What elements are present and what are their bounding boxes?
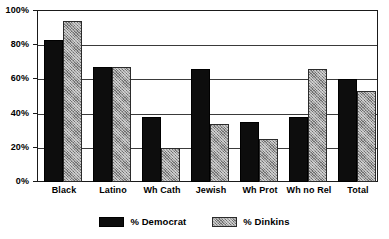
bars-layer xyxy=(37,10,378,182)
y-tick-label-100: 100% xyxy=(6,6,29,15)
y-tick-label-20: 20% xyxy=(11,143,29,152)
x-tick-label-wh-prot: Wh Prot xyxy=(238,185,282,196)
x-axis: Black Latino Wh Cath Jewish Wh Prot Wh n… xyxy=(37,185,378,199)
bar-democrat-wh-no-rel xyxy=(289,117,308,182)
bar-democrat-total xyxy=(338,79,357,182)
legend-swatch-dinkins-icon xyxy=(212,217,237,227)
bar-democrat-jewish xyxy=(191,69,210,182)
x-tick-label-wh-no-rel: Wh no Rel xyxy=(285,185,333,196)
bar-group-total xyxy=(336,10,380,182)
bar-dinkins-wh-no-rel xyxy=(308,69,327,182)
bar-democrat-wh-prot xyxy=(240,122,259,182)
y-tick-label-60: 60% xyxy=(11,74,29,83)
bar-group-wh-cath xyxy=(140,10,184,182)
x-tick-label-jewish: Jewish xyxy=(189,185,233,196)
bar-dinkins-jewish xyxy=(210,124,229,182)
y-axis: 100% 80% 60% 40% 20% 0% xyxy=(0,0,34,239)
y-tick-label-80: 80% xyxy=(11,40,29,49)
bar-dinkins-wh-cath xyxy=(161,148,180,182)
y-tick-label-0: 0% xyxy=(16,177,29,186)
bar-democrat-black xyxy=(44,40,63,182)
x-tick-label-latino: Latino xyxy=(91,185,135,196)
chart-legend: % Democrat % Dinkins xyxy=(0,213,389,231)
legend-label-dinkins: % Dinkins xyxy=(243,217,289,227)
bar-group-jewish xyxy=(189,10,233,182)
bar-dinkins-latino xyxy=(112,67,131,182)
bar-democrat-wh-cath xyxy=(142,117,161,182)
bar-democrat-latino xyxy=(93,67,112,182)
bar-group-wh-no-rel xyxy=(287,10,331,182)
bar-chart: 100% 80% 60% 40% 20% 0% xyxy=(0,0,389,239)
x-tick-label-wh-cath: Wh Cath xyxy=(140,185,184,196)
bar-group-black xyxy=(42,10,86,182)
legend-swatch-democrat-icon xyxy=(99,217,124,227)
bar-dinkins-wh-prot xyxy=(259,139,278,182)
bar-group-wh-prot xyxy=(238,10,282,182)
x-tick-label-total: Total xyxy=(336,185,380,196)
legend-label-democrat: % Democrat xyxy=(130,217,186,227)
bar-dinkins-total xyxy=(357,91,376,182)
bar-dinkins-black xyxy=(63,21,82,182)
x-tick-label-black: Black xyxy=(42,185,86,196)
legend-entry-dinkins: % Dinkins xyxy=(212,217,289,227)
bar-group-latino xyxy=(91,10,135,182)
y-tick-label-40: 40% xyxy=(11,109,29,118)
legend-entry-democrat: % Democrat xyxy=(99,217,186,227)
